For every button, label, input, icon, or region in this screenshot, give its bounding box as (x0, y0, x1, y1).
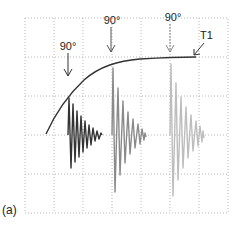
signal-1-fid (68, 98, 102, 168)
signal-3-fid (170, 64, 204, 196)
pulse-label-3: 90° (165, 11, 182, 23)
pulse-arrow-1: 90° (60, 40, 77, 76)
pulse-label-2: 90° (104, 14, 121, 26)
pointer-arrow-icon (194, 43, 204, 55)
pulse-arrow-3: 90° (165, 11, 182, 52)
t1-recovery-diagram: 90° 90° 90° T1 (a) (0, 0, 241, 227)
panel-label: (a) (2, 203, 17, 217)
t1-annotation: T1 (194, 29, 213, 55)
pulse-label-1: 90° (60, 40, 77, 52)
t1-label: T1 (200, 29, 213, 41)
